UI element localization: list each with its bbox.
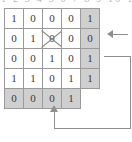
top-cutoff-text-label: 1 2 3 4 5 6 7 8 9 10 11 12 xyxy=(1,0,132,4)
matrix-cell: 0 xyxy=(61,48,81,69)
matrix-cell: 0 xyxy=(80,28,100,49)
feedback-arrowhead-icon xyxy=(50,105,58,112)
binary-matrix: 100010100000101110110001 xyxy=(4,8,100,109)
row-in-arrow xyxy=(107,29,129,41)
feedback-wire-up xyxy=(54,112,55,129)
matrix-cell: 0 xyxy=(42,68,62,89)
matrix-cell: 1 xyxy=(23,28,43,49)
feedback-wire-right xyxy=(130,56,131,129)
matrix-cell xyxy=(80,88,100,109)
feedback-wire-top xyxy=(104,56,131,57)
matrix-cell: 0 xyxy=(4,28,24,49)
matrix-cell: 0 xyxy=(61,8,81,29)
matrix-cell: 1 xyxy=(61,88,81,109)
matrix-cell: 0 xyxy=(4,48,24,69)
data-row-4: 11011 xyxy=(4,69,100,89)
matrix-cell: 1 xyxy=(80,48,100,69)
data-row-3: 00101 xyxy=(4,49,100,69)
data-row-1: 10001 xyxy=(4,8,100,29)
matrix-cell: 1 xyxy=(4,8,24,29)
matrix-cell: 1 xyxy=(42,48,62,69)
matrix-cell: 0 xyxy=(23,88,43,109)
data-row-2: 01000 xyxy=(4,29,100,49)
matrix-cell: 1 xyxy=(80,8,100,29)
figure-root: 1 2 3 4 5 6 7 8 9 10 11 12 1000101000001… xyxy=(0,0,132,142)
matrix-cell: 1 xyxy=(61,68,81,89)
matrix-cell: 0 xyxy=(23,8,43,29)
matrix-cell: 1 xyxy=(80,68,100,89)
cross-out-icon xyxy=(43,29,61,48)
matrix-cell: 0 xyxy=(23,48,43,69)
matrix-cell: 1 xyxy=(4,68,24,89)
matrix-cell: 0 xyxy=(61,28,81,49)
matrix-cell: 1 xyxy=(23,68,43,89)
row-in-arrow-shaft xyxy=(111,34,128,35)
feedback-wire-bottom xyxy=(54,128,131,129)
matrix-cell: 0 xyxy=(42,8,62,29)
top-cutoff-text: 1 2 3 4 5 6 7 8 9 10 11 12 xyxy=(0,0,132,7)
matrix-cell: 0 xyxy=(4,88,24,109)
matrix-cell: 0 xyxy=(42,28,62,49)
